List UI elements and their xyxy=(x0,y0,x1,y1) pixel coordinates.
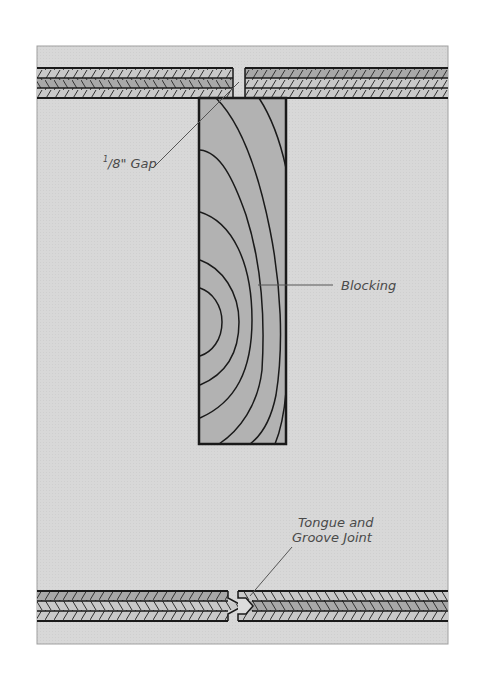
blocking-label: Blocking xyxy=(341,278,396,293)
gap-label: 1/8" Gap xyxy=(103,152,157,172)
top-right-board xyxy=(245,68,448,98)
bottom-left-board xyxy=(37,591,243,621)
blocking xyxy=(199,98,286,444)
gap-unit: " xyxy=(120,156,126,171)
diagram-svg xyxy=(0,0,479,677)
gap-text: Gap xyxy=(131,156,157,171)
tongue-groove-label: Tongue and Groove Joint xyxy=(296,515,374,545)
diagram-canvas: 1/8" Gap Blocking Tongue and Groove Join… xyxy=(0,0,479,677)
top-left-board xyxy=(37,68,233,98)
tongue-groove-label-line2: Groove Joint xyxy=(292,530,374,545)
tongue-groove-label-line1: Tongue and xyxy=(296,515,374,530)
bottom-right-board xyxy=(238,591,448,621)
